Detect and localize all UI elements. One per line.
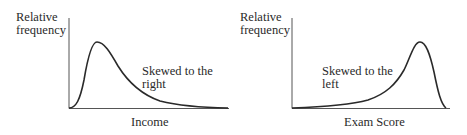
right-annotation-line1: Skewed to the [322,64,393,78]
left-annotation-line1: Skewed to the [142,64,213,78]
right-annotation-line2: left [322,77,339,91]
right-xlabel: Exam Score [344,115,405,129]
left-annotation-line2: right [142,77,166,91]
left-ylabel-line1: Relative [16,10,58,24]
left-xlabel: Income [131,115,168,129]
right-ylabel-line2: frequency [240,23,290,37]
right-ylabel-line1: Relative [240,10,282,24]
left-ylabel-line2: frequency [16,23,66,37]
